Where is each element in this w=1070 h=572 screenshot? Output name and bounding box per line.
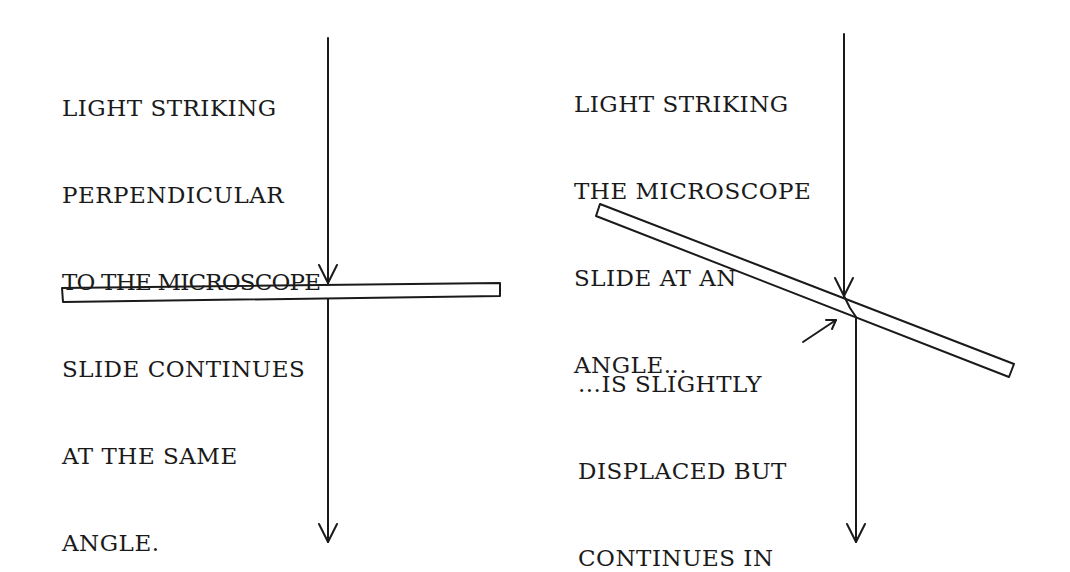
right-annotation-line: ...IS SLIGHTLY: [578, 370, 787, 399]
left-caption-line: ANGLE.: [62, 529, 320, 558]
left-caption: LIGHT STRIKING PERPENDICULAR TO THE MICR…: [62, 36, 320, 572]
left-caption-line: TO THE MICROSCOPE: [62, 268, 320, 297]
left-caption-line: PERPENDICULAR: [62, 181, 320, 210]
right-caption-line: SLIDE AT AN: [574, 264, 811, 293]
left-caption-line: SLIDE CONTINUES: [62, 355, 320, 384]
right-annotation: ...IS SLIGHTLY DISPLACED BUT CONTINUES I…: [578, 312, 787, 572]
left-caption-line: AT THE SAME: [62, 442, 320, 471]
left-caption-line: LIGHT STRIKING: [62, 94, 320, 123]
right-caption-line: THE MICROSCOPE: [574, 177, 811, 206]
right-annotation-line: DISPLACED BUT: [578, 457, 787, 486]
right-annotation-line: CONTINUES IN: [578, 544, 787, 572]
right-caption-line: LIGHT STRIKING: [574, 90, 811, 119]
